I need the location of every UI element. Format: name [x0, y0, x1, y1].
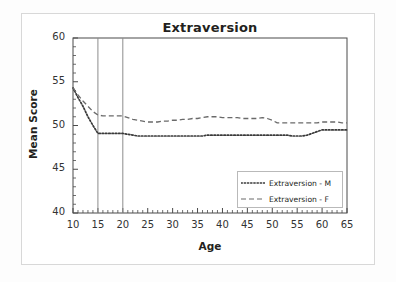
legend-label: Extraversion - M — [269, 179, 331, 188]
x-axis-title: Age — [73, 240, 347, 252]
x-axis-tick-label: 30 — [160, 219, 186, 230]
x-axis-tick-label: 15 — [85, 219, 111, 230]
x-axis-tick-label: 40 — [209, 219, 235, 230]
x-axis-tick-label: 65 — [334, 219, 360, 230]
series-line-2 — [73, 88, 347, 123]
x-axis-tick-label: 20 — [110, 219, 136, 230]
chart-legend: Extraversion - M Extraversion - F — [237, 171, 343, 208]
y-axis-tick-label: 60 — [39, 31, 65, 42]
x-axis-tick-label: 45 — [234, 219, 260, 230]
x-axis-tick-label: 25 — [135, 219, 161, 230]
x-axis-tick-label: 50 — [259, 219, 285, 230]
legend-item-extraversion-m: Extraversion - M — [241, 176, 331, 190]
legend-swatch-dotted-icon — [241, 179, 265, 187]
y-axis-tick-label: 50 — [39, 119, 65, 130]
y-axis-tick-label: 40 — [39, 206, 65, 217]
chart-figure: Extraversion Mean Score Age 404550556010… — [0, 0, 396, 282]
legend-item-extraversion-f: Extraversion - F — [241, 192, 329, 206]
x-axis-tick-label: 10 — [60, 219, 86, 230]
x-axis-tick-label: 35 — [185, 219, 211, 230]
y-axis-tick-label: 45 — [39, 162, 65, 173]
x-axis-tick-label: 55 — [284, 219, 310, 230]
legend-swatch-dashed-icon — [241, 195, 265, 203]
x-axis-tick-label: 60 — [309, 219, 335, 230]
series-line-1 — [73, 88, 347, 136]
y-axis-title: Mean Score — [27, 69, 39, 179]
legend-label: Extraversion - F — [269, 195, 329, 204]
y-axis-tick-label: 55 — [39, 75, 65, 86]
